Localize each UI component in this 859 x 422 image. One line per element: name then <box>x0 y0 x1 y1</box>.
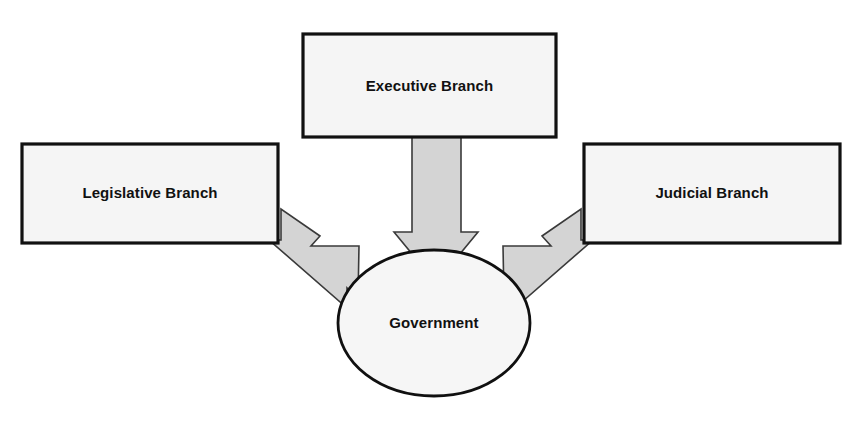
node-judicial-branch[interactable]: Judicial Branch <box>584 144 840 243</box>
legislative-branch-label: Legislative Branch <box>82 184 217 201</box>
node-government[interactable]: Government <box>338 250 530 396</box>
government-branches-diagram: Executive Branch Legislative Branch Judi… <box>0 0 859 422</box>
executive-branch-label: Executive Branch <box>366 77 494 94</box>
node-executive-branch[interactable]: Executive Branch <box>303 34 556 137</box>
judicial-branch-label: Judicial Branch <box>655 184 768 201</box>
diagram-canvas: Executive Branch Legislative Branch Judi… <box>0 0 859 422</box>
government-label: Government <box>389 314 478 331</box>
node-legislative-branch[interactable]: Legislative Branch <box>22 144 278 243</box>
